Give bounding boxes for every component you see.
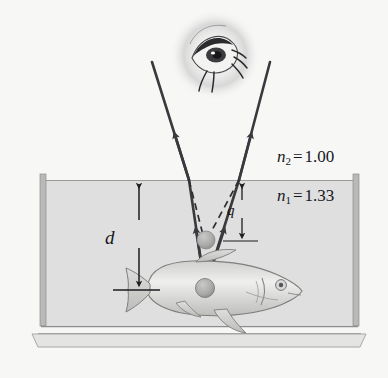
refractive-index-n2-label: n2=1.00 <box>277 148 334 167</box>
tank-right-wall <box>353 174 359 326</box>
observer-eye <box>169 9 261 101</box>
figure-canvas: n2=1.00 n1=1.33 d q <box>0 0 388 378</box>
n1-equals: = <box>291 186 305 205</box>
right-refracted-ray-head <box>239 135 251 180</box>
fish-eye-pupil <box>279 283 283 287</box>
tank-base <box>32 334 366 347</box>
tank-left-wall <box>40 174 46 326</box>
n1-value: 1.33 <box>305 186 335 205</box>
apparent-depth-label: q <box>227 203 235 218</box>
n1-symbol: n <box>277 186 286 205</box>
n2-value: 1.00 <box>305 147 335 166</box>
n2-equals: = <box>291 147 305 166</box>
left-refracted-ray-head <box>175 135 189 180</box>
depth-label: d <box>105 228 115 247</box>
light-source-point <box>196 279 215 298</box>
n2-symbol: n <box>277 147 286 166</box>
virtual-image-point <box>197 231 215 249</box>
eye-highlight <box>211 52 215 55</box>
refractive-index-n1-label: n1=1.33 <box>277 187 334 206</box>
refracted-ray-arrowheads <box>175 135 251 180</box>
